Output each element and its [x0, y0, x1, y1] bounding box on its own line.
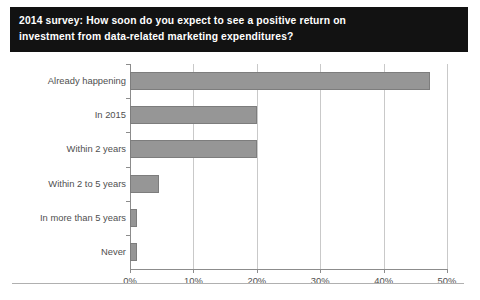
- x-axis-tick-10: [193, 269, 194, 273]
- x-axis-label-50: 50%: [438, 275, 457, 286]
- bar: [130, 140, 257, 158]
- gridline-10: [193, 64, 194, 269]
- x-axis-tick-50: [447, 269, 448, 273]
- gridline-30: [320, 64, 321, 269]
- y-axis-label: Already happening: [2, 75, 126, 86]
- bar: [130, 175, 159, 193]
- y-axis-label: In more than 5 years: [2, 212, 126, 223]
- x-axis-tick-40: [384, 269, 385, 273]
- x-axis-label-0: 0%: [123, 275, 137, 286]
- y-axis-tick: [126, 64, 130, 65]
- x-axis-tick-20: [257, 269, 258, 273]
- x-axis-label-20: 20%: [247, 275, 266, 286]
- x-axis-label-30: 30%: [311, 275, 330, 286]
- y-axis-tick: [126, 98, 130, 99]
- y-axis-tick: [126, 132, 130, 133]
- chart-title-line-1: 2014 survey: How soon do you expect to s…: [19, 13, 458, 29]
- gridline-20: [257, 64, 258, 269]
- chart-title-banner: 2014 survey: How soon do you expect to s…: [10, 7, 468, 52]
- chart-title-line-2: investment from data-related marketing e…: [19, 29, 458, 45]
- bar: [130, 106, 257, 124]
- x-axis-line: [130, 269, 448, 270]
- x-axis-label-40: 40%: [374, 275, 393, 286]
- y-axis-tick: [126, 201, 130, 202]
- bar: [130, 72, 430, 90]
- plot-area: [130, 64, 447, 269]
- bottom-divider-rule: [12, 283, 464, 284]
- y-axis-label: Within 2 to 5 years: [2, 178, 126, 189]
- x-axis-tick-30: [320, 269, 321, 273]
- bar-chart: Already happeningIn 2015Within 2 yearsWi…: [0, 56, 480, 286]
- gridline-50: [447, 64, 448, 269]
- y-axis-category-labels: Already happeningIn 2015Within 2 yearsWi…: [0, 64, 126, 269]
- gridline-40: [384, 64, 385, 269]
- y-axis-label: Within 2 years: [2, 143, 126, 154]
- y-axis-tick: [126, 235, 130, 236]
- y-axis-tick: [126, 167, 130, 168]
- x-axis-tick-0: [130, 269, 131, 273]
- x-axis-label-10: 10%: [184, 275, 203, 286]
- bar: [130, 209, 137, 227]
- bar: [130, 243, 137, 261]
- y-axis-label: In 2015: [2, 109, 126, 120]
- y-axis-label: Never: [2, 246, 126, 257]
